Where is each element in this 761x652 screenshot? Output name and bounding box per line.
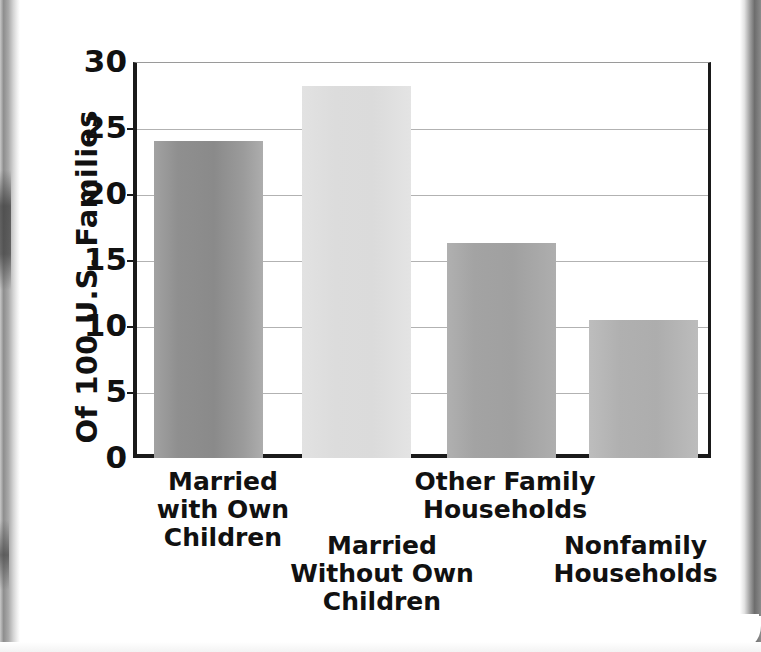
y-tick-10: 10: [61, 310, 127, 341]
bar-nonfamily-households[interactable]: [589, 320, 698, 458]
x-label-nonfamily-households: Nonfamily Households: [533, 532, 738, 588]
y-tick-30: 30: [61, 46, 127, 77]
y-tick-20: 20: [61, 178, 127, 209]
x-label-married-without-own-children: Married Without Own Children: [277, 532, 487, 616]
bar-chart: Of 100 U.S. Families 30 25 20 15 10 5 0: [0, 0, 761, 652]
x-label-other-family-households: Other Family Households: [400, 468, 610, 524]
y-tick-25: 25: [61, 112, 127, 143]
bar-other-family-households[interactable]: [447, 243, 556, 458]
y-axis-ticks: 30 25 20 15 10 5 0: [55, 62, 127, 458]
y-tick-5: 5: [61, 376, 127, 407]
bar-married-without-own-children[interactable]: [302, 86, 411, 458]
bar-series: [133, 62, 711, 458]
y-tick-15: 15: [61, 244, 127, 275]
bar-married-with-own-children[interactable]: [154, 141, 263, 458]
y-tick-0: 0: [61, 442, 127, 473]
scanned-page: Of 100 U.S. Families 30 25 20 15 10 5 0: [0, 0, 761, 652]
